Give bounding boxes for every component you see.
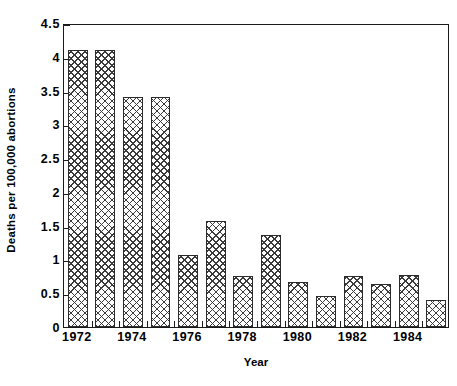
bar bbox=[68, 50, 88, 327]
plot-frame bbox=[63, 24, 449, 328]
bar bbox=[316, 296, 336, 327]
bar bbox=[399, 275, 419, 327]
x-axis-tick-label: 1974 bbox=[117, 330, 146, 344]
x-axis-tick-label: 1976 bbox=[172, 330, 201, 344]
y-axis-tick-label: 1.5 bbox=[20, 220, 60, 234]
bar bbox=[151, 97, 171, 327]
x-axis-title: Year bbox=[63, 356, 449, 368]
y-axis-tick-label: 0 bbox=[20, 321, 60, 335]
bar-chart: Deaths per 100,000 abortions 00.511.522.… bbox=[0, 0, 457, 386]
y-axis-tick-label: 2.5 bbox=[20, 152, 60, 166]
bar bbox=[426, 300, 446, 327]
y-axis-tick-labels: 00.511.522.533.544.5 bbox=[20, 0, 60, 386]
bar bbox=[288, 282, 308, 327]
x-axis-tick-labels: 1972197419761978198019821984 bbox=[63, 330, 449, 350]
x-axis-tick-label: 1980 bbox=[283, 330, 312, 344]
bar bbox=[95, 50, 115, 327]
y-axis-title-text: Deaths per 100,000 abortions bbox=[5, 87, 17, 252]
bar bbox=[206, 221, 226, 327]
y-axis-title: Deaths per 100,000 abortions bbox=[0, 0, 22, 340]
y-axis-tick-label: 0.5 bbox=[20, 287, 60, 301]
bar bbox=[371, 284, 391, 327]
bars-layer bbox=[64, 25, 448, 327]
y-axis-tick-label: 3.5 bbox=[20, 85, 60, 99]
y-axis-tick-label: 4.5 bbox=[20, 17, 60, 31]
x-axis-tick-label: 1978 bbox=[227, 330, 256, 344]
y-axis-tick-label: 4 bbox=[20, 51, 60, 65]
bar bbox=[233, 276, 253, 327]
bar bbox=[123, 97, 143, 327]
bar bbox=[178, 255, 198, 327]
x-axis-tick-label: 1984 bbox=[393, 330, 422, 344]
y-axis-tick-label: 3 bbox=[20, 118, 60, 132]
bar bbox=[344, 276, 364, 327]
x-axis-tick-label: 1972 bbox=[62, 330, 91, 344]
y-axis-tick-label: 2 bbox=[20, 186, 60, 200]
bar bbox=[261, 235, 281, 327]
y-axis-tick-label: 1 bbox=[20, 253, 60, 267]
x-axis-tick-label: 1982 bbox=[338, 330, 367, 344]
